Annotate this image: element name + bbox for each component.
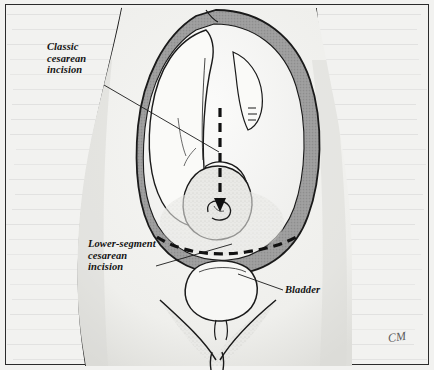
artist-signature: CM [387, 329, 407, 346]
label-classic-cesarean-incision: Classic cesarean incision [47, 41, 86, 76]
figure-page: Classic cesarean incision Lower-segment … [0, 0, 434, 370]
label-bladder: Bladder [285, 284, 320, 296]
label-lower-segment-cesarean-incision: Lower-segment cesarean incision [88, 238, 156, 273]
